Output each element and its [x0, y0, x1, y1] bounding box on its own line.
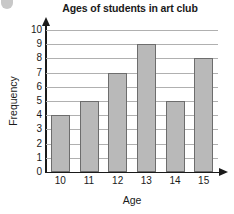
- y-axis-tick-label: 3: [24, 124, 42, 134]
- bar: [80, 101, 99, 172]
- bar: [51, 115, 70, 172]
- x-axis-tick-label: 13: [134, 176, 158, 186]
- y-axis-tick-label: 4: [24, 110, 42, 120]
- bar-chart-figure: Ages of students in art club Frequency 1…: [0, 0, 234, 214]
- bar: [108, 73, 127, 172]
- y-axis-tick-label: 1: [24, 153, 42, 163]
- gridline: [46, 129, 218, 130]
- x-axis-title: Age: [46, 194, 218, 206]
- bar: [166, 101, 185, 172]
- x-axis-tick-label: 10: [48, 176, 72, 186]
- gridline: [46, 115, 218, 116]
- plot-area: [46, 30, 218, 172]
- y-axis-tick-labels: 109876543210: [21, 0, 42, 214]
- y-axis-arrow-icon: [42, 17, 50, 26]
- x-axis-arrow-icon: [219, 168, 228, 176]
- gridline: [46, 158, 218, 159]
- page-corner-artifact: [1, 0, 13, 9]
- x-axis-tick-label: 15: [192, 176, 216, 186]
- gridline: [46, 58, 218, 59]
- gridline: [46, 30, 218, 31]
- y-axis-title: Frequency: [7, 65, 19, 137]
- chart-title: Ages of students in art club: [30, 2, 230, 14]
- bar: [194, 58, 213, 172]
- y-axis-tick-label: 6: [24, 82, 42, 92]
- y-axis-tick-label: 10: [24, 25, 42, 35]
- gridline: [46, 73, 218, 74]
- x-axis-tick-label: 11: [77, 176, 101, 186]
- x-axis-tick-label: 12: [106, 176, 130, 186]
- gridline: [46, 87, 218, 88]
- x-axis-tick-label: 14: [163, 176, 187, 186]
- y-axis-tick-label: 2: [24, 139, 42, 149]
- y-axis-tick-label: 7: [24, 68, 42, 78]
- y-axis-tick-label: 5: [24, 96, 42, 106]
- gridline: [46, 44, 218, 45]
- bar: [137, 44, 156, 172]
- y-axis-tick-label: 8: [24, 53, 42, 63]
- y-axis-tick-label: 0: [24, 167, 42, 177]
- gridline: [46, 144, 218, 145]
- y-axis-tick-label: 9: [24, 39, 42, 49]
- x-axis-line: [45, 172, 219, 174]
- gridline: [46, 101, 218, 102]
